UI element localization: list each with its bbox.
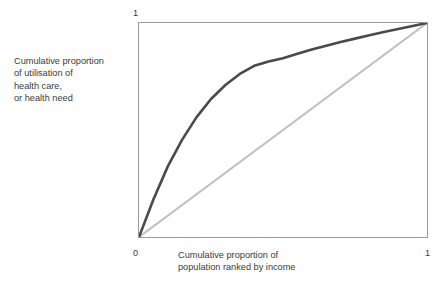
concentration-curve-figure: Cumulative proportion of utilisation of … — [0, 0, 447, 281]
x-axis-label: Cumulative proportion of population rank… — [178, 249, 378, 274]
x-axis-tick-one: 1 — [425, 248, 430, 258]
plot-area — [138, 22, 428, 238]
y-axis-label-line-3: health care, — [14, 80, 132, 92]
y-axis-label-line-4: or health need — [14, 92, 132, 104]
x-axis-label-line-1: Cumulative proportion of — [178, 249, 378, 261]
y-axis-label-line-2: of utilisation of — [14, 67, 132, 79]
y-axis-label: Cumulative proportion of utilisation of … — [14, 55, 132, 105]
y-axis-label-line-1: Cumulative proportion — [14, 55, 132, 67]
x-axis-tick-zero: 0 — [133, 248, 138, 258]
line-of-equality — [139, 23, 427, 237]
plot-canvas — [139, 23, 427, 237]
y-axis-tick-top: 1 — [133, 8, 138, 18]
x-axis-label-line-2: population ranked by income — [178, 261, 378, 273]
